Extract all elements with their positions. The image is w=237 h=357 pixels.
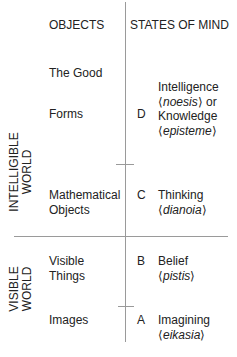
state-b-greek: pistis bbox=[163, 269, 190, 283]
state-d-line4: ⟨episteme⟩ bbox=[158, 124, 219, 139]
object-visible-line1: Visible bbox=[49, 254, 85, 269]
object-visible-line2: Things bbox=[49, 269, 85, 284]
world-divider bbox=[14, 236, 228, 237]
state-d-line2: ⟨noesis⟩ or bbox=[158, 95, 219, 110]
state-d-greek2: episteme bbox=[163, 124, 212, 138]
state-intelligence: Intelligence ⟨noesis⟩ or Knowledge ⟨epis… bbox=[158, 80, 219, 138]
intelligible-label-line2: WORLD bbox=[21, 127, 34, 217]
state-a-line2: ⟨eikasia⟩ bbox=[158, 328, 210, 343]
state-letter-a: A bbox=[137, 313, 145, 328]
state-imagining: Imagining ⟨eikasia⟩ bbox=[158, 313, 210, 342]
state-d-or: or bbox=[206, 95, 217, 109]
state-d-line3: Knowledge bbox=[158, 109, 219, 124]
object-mathematical-line1: Mathematical bbox=[49, 188, 120, 203]
state-letter-d: D bbox=[137, 107, 146, 122]
object-images: Images bbox=[49, 313, 88, 328]
object-mathematical-objects: Mathematical Objects bbox=[49, 188, 120, 217]
state-b-line2: ⟨pistis⟩ bbox=[158, 269, 195, 284]
tick-intelligible bbox=[116, 164, 134, 165]
tick-visible bbox=[118, 306, 134, 307]
object-mathematical-line2: Objects bbox=[49, 203, 120, 218]
state-c-line2: ⟨dianoia⟩ bbox=[158, 203, 207, 218]
object-visible-things: Visible Things bbox=[49, 254, 85, 283]
visible-world-label: VISIBLE WORLD bbox=[8, 264, 36, 314]
header-states-of-mind: STATES OF MIND bbox=[130, 18, 229, 33]
state-letter-c: C bbox=[137, 188, 146, 203]
state-c-line1: Thinking bbox=[158, 188, 207, 203]
intelligible-world-label: INTELLIGIBLE WORLD bbox=[8, 127, 36, 217]
state-thinking: Thinking ⟨dianoia⟩ bbox=[158, 188, 207, 217]
object-forms: Forms bbox=[49, 107, 83, 122]
state-a-line1: Imagining bbox=[158, 313, 210, 328]
object-the-good: The Good bbox=[49, 66, 102, 81]
column-divider bbox=[125, 2, 126, 342]
visible-label-line2: WORLD bbox=[21, 264, 34, 314]
state-b-line1: Belief bbox=[158, 254, 195, 269]
state-c-greek: dianoia bbox=[163, 203, 202, 217]
state-d-greek1: noesis bbox=[163, 95, 198, 109]
state-d-line1: Intelligence bbox=[158, 80, 219, 95]
state-belief: Belief ⟨pistis⟩ bbox=[158, 254, 195, 283]
state-letter-b: B bbox=[137, 254, 145, 269]
state-a-greek: eikasia bbox=[163, 328, 200, 342]
header-objects: OBJECTS bbox=[49, 18, 104, 33]
